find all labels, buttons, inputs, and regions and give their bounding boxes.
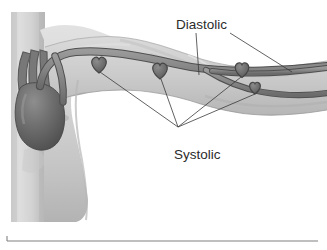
figure-frame xyxy=(7,236,318,241)
figure-root: Diastolic Systolic xyxy=(0,0,327,250)
diastolic-label: Diastolic xyxy=(176,17,227,32)
systolic-label: Systolic xyxy=(174,147,221,162)
anatomy-illustration: Diastolic Systolic xyxy=(0,0,327,250)
